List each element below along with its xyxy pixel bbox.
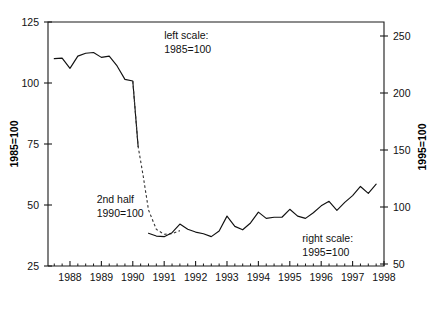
right-tick-label: 150 [393,144,411,156]
left-tick-label: 75 [27,138,39,150]
right-axis-title: 1995=100 [416,123,428,170]
chart-background [0,0,442,309]
right-tick-label: 200 [393,87,411,99]
right-tick-label: 50 [393,258,405,270]
x-tick-label: 1994 [247,271,271,283]
left-tick-label: 50 [27,199,39,211]
left-axis-title: 1985=100 [8,120,20,167]
x-tick-label: 1991 [153,271,177,283]
right-tick-label: 250 [393,30,411,42]
annotation-line-1: left scale: [164,29,208,41]
x-tick-label: 1998 [372,271,396,283]
left-tick-label: 25 [27,260,39,272]
annotation-line-2: 1995=100 [302,246,349,258]
chart-container: 255075100125 50100150200250 198819891990… [0,0,442,309]
x-tick-label: 1989 [90,271,114,283]
annotation-line-2: 1985=100 [164,43,211,55]
x-tick-label: 1993 [215,271,239,283]
x-tick-label: 1988 [58,271,82,283]
annotation-line-1: 2nd half [97,193,134,205]
x-tick-label: 1996 [310,271,334,283]
right-tick-label: 100 [393,201,411,213]
x-tick-label: 1995 [278,271,302,283]
annotation-line-1: right scale: [302,232,353,244]
x-tick-label: 1997 [341,271,365,283]
left-tick-label: 100 [21,77,39,89]
left-tick-label: 125 [21,16,39,28]
x-tick-label: 1992 [184,271,208,283]
annotation-line-2: 1990=100 [97,207,144,219]
line-chart: 255075100125 50100150200250 198819891990… [0,0,442,309]
x-tick-label: 1990 [121,271,145,283]
